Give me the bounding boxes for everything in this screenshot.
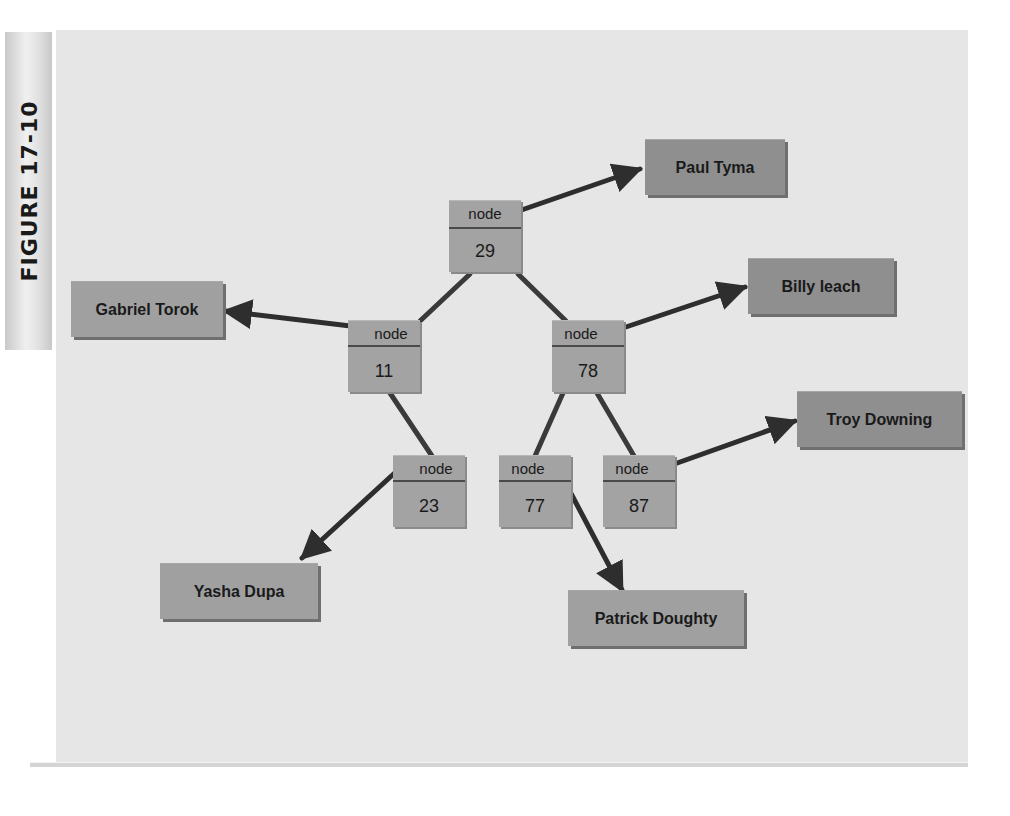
node-label: node <box>499 456 571 482</box>
tree-node-87: node 87 <box>603 455 675 527</box>
edge-29-11 <box>420 274 470 321</box>
tree-node-11: node 11 <box>348 320 420 392</box>
node-label: node <box>393 456 465 482</box>
node-label: node <box>603 456 675 482</box>
tree-node-23: node 23 <box>393 455 465 527</box>
tree-node-77: node 77 <box>499 455 571 527</box>
name-box-gabriel-torok: Gabriel Torok <box>71 281 223 337</box>
name-box-patrick-doughty: Patrick Doughty <box>568 590 744 646</box>
node-key: 23 <box>393 484 465 528</box>
edge-11-23 <box>390 393 432 456</box>
arrow-87-troy <box>666 421 795 467</box>
name-box-yasha-dupa: Yasha Dupa <box>160 563 318 619</box>
node-key: 78 <box>552 349 624 393</box>
name-box-paul-tyma: Paul Tyma <box>645 139 785 195</box>
edge-29-78 <box>518 274 566 321</box>
name-box-billy-leach: Billy leach <box>748 258 894 314</box>
arrow-23-yasha <box>302 469 399 558</box>
node-key: 11 <box>348 349 420 393</box>
node-label: node <box>449 201 521 229</box>
arrow-78-billy <box>614 287 745 331</box>
arrow-29-paul <box>510 169 640 214</box>
node-label: node <box>348 321 420 347</box>
tree-node-78: node 78 <box>552 320 624 392</box>
edge-78-77 <box>535 393 563 456</box>
node-label: node <box>552 321 624 347</box>
node-key: 77 <box>499 484 571 528</box>
edge-78-87 <box>597 393 634 456</box>
node-key: 29 <box>449 229 521 273</box>
tree-node-29: node 29 <box>449 200 521 272</box>
name-box-troy-downing: Troy Downing <box>797 391 962 447</box>
node-key: 87 <box>603 484 675 528</box>
